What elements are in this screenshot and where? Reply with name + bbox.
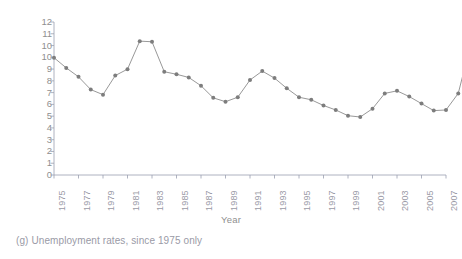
data-point <box>260 69 264 73</box>
data-point <box>285 86 289 90</box>
data-point <box>113 74 117 78</box>
data-point <box>162 70 166 74</box>
x-tick-label: 1989 <box>230 190 239 211</box>
data-point <box>52 56 56 60</box>
y-tick-label: 0 <box>30 170 52 180</box>
y-tick-label: 3 <box>30 135 52 145</box>
data-point <box>371 107 375 111</box>
axis-lines <box>54 22 446 175</box>
y-tick-label: 11 <box>30 29 52 39</box>
x-tick-label: 1987 <box>205 190 214 211</box>
x-tick-label: 2001 <box>377 190 386 211</box>
data-point <box>224 100 228 104</box>
data-point <box>77 75 81 79</box>
x-tick-label: 1995 <box>303 190 312 211</box>
y-tick-label: 2 <box>30 146 52 156</box>
data-point <box>420 102 424 106</box>
x-tick-label: 2003 <box>401 190 410 211</box>
y-tick-label: 4 <box>30 123 52 133</box>
x-tick-label: 1983 <box>156 190 165 211</box>
x-tick-label: 1975 <box>58 190 67 211</box>
x-tick-label: 2007 <box>450 190 459 211</box>
y-tick-label: 1 <box>30 158 52 168</box>
x-tick-label: 1977 <box>83 190 92 211</box>
data-point <box>101 93 105 97</box>
data-point <box>273 76 277 80</box>
x-axis-tick-labels: 1975197719791981198319851987198919911993… <box>54 177 454 213</box>
chart-figure: Unemployment rate (%) 121110109876543210… <box>0 0 462 259</box>
data-point <box>456 91 460 95</box>
data-line <box>54 41 462 117</box>
data-point <box>432 109 436 113</box>
data-point <box>199 84 203 88</box>
x-tick-label: 2005 <box>426 190 435 211</box>
x-tick-label: 1997 <box>328 190 337 211</box>
y-tick-label: 6 <box>30 99 52 109</box>
x-tick-label: 1991 <box>254 190 263 211</box>
x-tick-label: 1993 <box>279 190 288 211</box>
x-axis-title: Year <box>0 214 462 225</box>
y-tick-label: 10 <box>30 52 52 62</box>
data-point <box>150 40 154 44</box>
y-tick-label: 10 <box>30 41 52 51</box>
data-point <box>407 95 411 99</box>
x-tick-label: 1985 <box>181 190 190 211</box>
data-point <box>89 88 93 92</box>
data-point <box>383 91 387 95</box>
data-point <box>248 78 252 82</box>
data-point <box>175 72 179 76</box>
data-point <box>187 75 191 79</box>
y-tick-label: 8 <box>30 76 52 86</box>
chart-canvas <box>54 22 446 175</box>
data-point <box>138 39 142 43</box>
data-point <box>334 108 338 112</box>
data-point <box>322 104 326 108</box>
data-point <box>126 67 130 71</box>
plot-area <box>54 22 446 175</box>
data-point <box>444 108 448 112</box>
data-point <box>346 114 350 118</box>
data-point <box>211 96 215 100</box>
data-point <box>236 95 240 99</box>
y-tick-label: 12 <box>30 17 52 27</box>
y-tick-label: 9 <box>30 64 52 74</box>
y-tick-label: 7 <box>30 88 52 98</box>
x-tick-label: 1981 <box>132 190 141 211</box>
data-point <box>297 95 301 99</box>
figure-caption: (g) Unemployment rates, since 1975 only <box>16 235 202 246</box>
x-tick-label: 1979 <box>107 190 116 211</box>
data-point <box>309 98 313 102</box>
data-point <box>64 66 68 70</box>
data-point <box>358 115 362 119</box>
y-axis-tick-labels: 121110109876543210 <box>26 22 52 175</box>
data-point <box>395 89 399 93</box>
x-tick-label: 1999 <box>352 190 361 211</box>
y-tick-label: 5 <box>30 111 52 121</box>
